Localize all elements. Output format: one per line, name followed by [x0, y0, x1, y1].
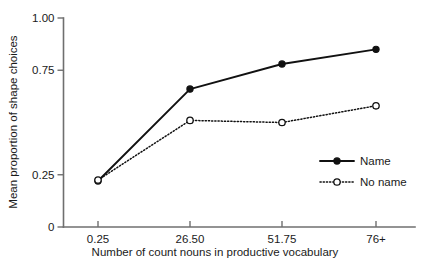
data-point — [373, 103, 379, 109]
y-tick-label: 0.75 — [32, 64, 54, 76]
legend-label: Name — [360, 155, 391, 167]
chart-legend: NameNo name — [320, 155, 407, 188]
y-tick-label: 0 — [48, 221, 54, 233]
legend-marker — [334, 179, 340, 185]
series-line — [98, 106, 376, 180]
data-point — [279, 61, 285, 67]
legend-item-no-name[interactable]: No name — [320, 176, 407, 188]
x-axis-ticks — [98, 221, 376, 227]
legend-marker — [334, 158, 340, 164]
data-point — [95, 177, 101, 183]
data-point — [373, 46, 379, 52]
x-axis: 0.2526.5051.7576+ Number of count nouns … — [64, 221, 416, 258]
x-tick-label: 51.75 — [268, 233, 297, 245]
data-point — [187, 117, 193, 123]
legend-item-name[interactable]: Name — [320, 155, 391, 167]
y-axis-tick-labels: 00.250.751.00 — [32, 12, 54, 233]
x-tick-label: 0.25 — [87, 233, 109, 245]
y-axis-title: Mean proportion of shape choices — [7, 35, 19, 208]
chart-container: 00.250.751.00 Mean proportion of shape c… — [0, 0, 421, 266]
legend-label: No name — [360, 176, 407, 188]
y-tick-label: 0.25 — [32, 169, 54, 181]
data-point — [187, 86, 193, 92]
y-axis-ticks — [58, 18, 64, 227]
y-axis: 00.250.751.00 Mean proportion of shape c… — [7, 12, 64, 233]
x-axis-title: Number of count nouns in productive voca… — [92, 246, 339, 258]
x-tick-label: 76+ — [366, 233, 386, 245]
x-axis-tick-labels: 0.2526.5051.7576+ — [87, 233, 386, 245]
x-tick-label: 26.50 — [176, 233, 205, 245]
y-tick-label: 1.00 — [32, 12, 54, 24]
line-chart: 00.250.751.00 Mean proportion of shape c… — [0, 0, 421, 266]
data-point — [279, 119, 285, 125]
